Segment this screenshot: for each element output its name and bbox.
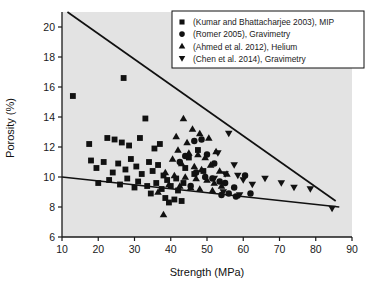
marker-square [101,159,107,165]
marker-square [112,137,118,143]
marker-square [110,170,116,176]
marker-square [148,191,154,197]
y-tick-label: 12 [43,141,55,153]
marker-square [104,135,110,141]
marker-square [171,197,177,203]
marker-circle [191,138,197,144]
y-tick-label: 20 [43,21,55,33]
x-tick-label: 60 [237,243,249,255]
marker-square [88,158,94,164]
marker-circle [198,136,204,142]
x-tick-label: 50 [201,243,213,255]
legend-label: (Chen et al. 2014), Gravimetry [193,54,306,64]
y-tick-label: 18 [43,51,55,63]
marker-square [146,159,152,165]
y-tick-label: 10 [43,171,55,183]
x-tick-label: 90 [346,243,358,255]
marker-square [135,179,141,185]
legend: (Kumar and Bhattacharjee 2003), MIP(Rome… [172,11,364,68]
x-tick-label: 70 [274,243,286,255]
marker-circle [231,184,237,190]
legend-label: (Romer 2005), Gravimetry [193,29,291,39]
marker-square [126,143,132,149]
marker-square [86,141,92,147]
marker-square [153,180,159,186]
y-tick-label: 6 [49,231,55,243]
y-tick-label: 8 [49,201,55,213]
legend-marker-square [179,19,184,24]
marker-square [119,140,125,146]
scatter-plot-figure: 10203040506070809068101214161820 (Kumar … [0,0,372,293]
marker-square [94,165,100,171]
legend-label: (Ahmed et al. 2012), Helium [193,42,297,52]
legend-marker-circle [179,31,185,37]
y-tick-label: 14 [43,111,55,123]
y-axis-title: Porosity (%) [4,98,16,158]
chart-canvas: 10203040506070809068101214161820 (Kumar … [0,0,372,293]
marker-square [121,75,127,81]
marker-square [124,176,130,182]
marker-square [133,164,139,170]
marker-square [139,171,145,177]
marker-square [137,135,143,141]
x-tick-label: 40 [165,243,177,255]
marker-square [152,146,158,152]
marker-square [115,161,121,167]
marker-square [166,200,172,206]
x-tick-label: 30 [129,243,141,255]
legend-label: (Kumar and Bhattacharjee 2003), MIP [193,17,334,27]
x-axis-title: Strength (MPa) [170,266,245,278]
marker-square [123,167,129,173]
x-tick-label: 80 [310,243,322,255]
marker-square [155,162,161,168]
marker-square [179,198,185,204]
marker-square [157,141,163,147]
x-tick-label: 10 [56,243,68,255]
marker-circle [247,190,253,196]
y-tick-label: 16 [43,81,55,93]
marker-square [128,156,134,162]
x-tick-label: 20 [92,243,104,255]
marker-square [70,93,76,99]
marker-square [150,168,156,174]
marker-square [142,116,148,122]
